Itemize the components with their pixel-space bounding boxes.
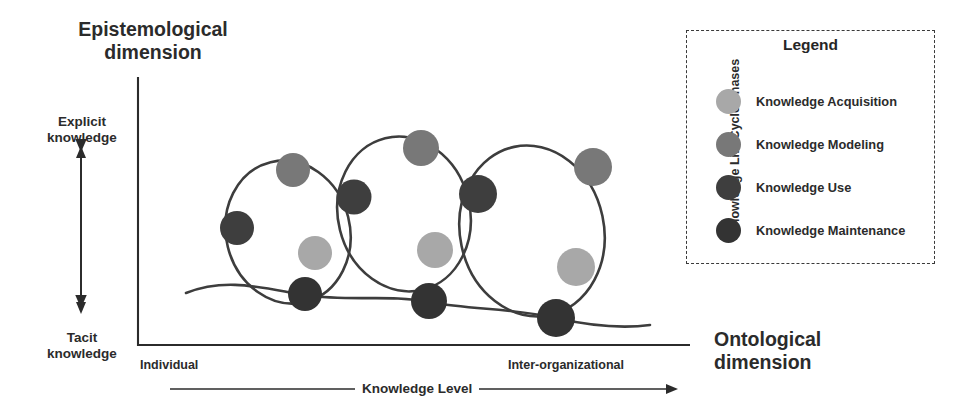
node-knowledge-maintenance [537, 299, 575, 337]
node-knowledge-modeling [276, 153, 310, 187]
node-knowledge-use [337, 180, 372, 215]
y-axis-label-tacit: Tacit knowledge [30, 330, 134, 362]
node-knowledge-acquisition [417, 232, 453, 268]
legend-item-knowledge-use: Knowledge Use [716, 166, 931, 209]
node-knowledge-modeling [403, 130, 439, 166]
node-knowledge-acquisition [557, 248, 595, 286]
node-knowledge-use [459, 175, 497, 213]
node-knowledge-use [220, 211, 254, 245]
legend-title: Legend [686, 36, 935, 54]
node-knowledge-maintenance [411, 283, 447, 319]
epistemological-double-arrow [76, 146, 86, 314]
node-knowledge-acquisition [298, 236, 332, 270]
legend-items: Knowledge Acquisition Knowledge Modeling… [716, 80, 931, 252]
ontological-dimension-title: Ontological dimension [714, 328, 924, 374]
legend-swatch-icon [716, 218, 741, 243]
legend-swatch-icon [716, 175, 741, 200]
x-axis-label-inter-organizational: Inter-organizational [508, 358, 624, 373]
cycle-1-nodes [220, 153, 332, 311]
legend-item-label: Knowledge Maintenance [756, 223, 905, 238]
node-knowledge-maintenance [288, 277, 322, 311]
node-knowledge-modeling [574, 148, 612, 186]
legend-swatch-icon [716, 132, 741, 157]
x-axis-label-individual: Individual [140, 358, 198, 373]
legend-item-knowledge-acquisition: Knowledge Acquisition [716, 80, 931, 123]
y-axis-label-explicit: Explicit knowledge [30, 114, 134, 146]
legend-item-label: Knowledge Acquisition [756, 94, 897, 109]
diagram-canvas: Epistemological dimension Ontological di… [0, 0, 976, 418]
x-axis-caption: Knowledge Level [355, 381, 479, 396]
legend-swatch-icon [716, 89, 741, 114]
legend-item-knowledge-modeling: Knowledge Modeling [716, 123, 931, 166]
legend-item-label: Knowledge Modeling [756, 137, 884, 152]
legend-item-label: Knowledge Use [756, 180, 851, 195]
epistemological-dimension-title: Epistemological dimension [48, 18, 258, 64]
legend-item-knowledge-maintenance: Knowledge Maintenance [716, 209, 931, 252]
